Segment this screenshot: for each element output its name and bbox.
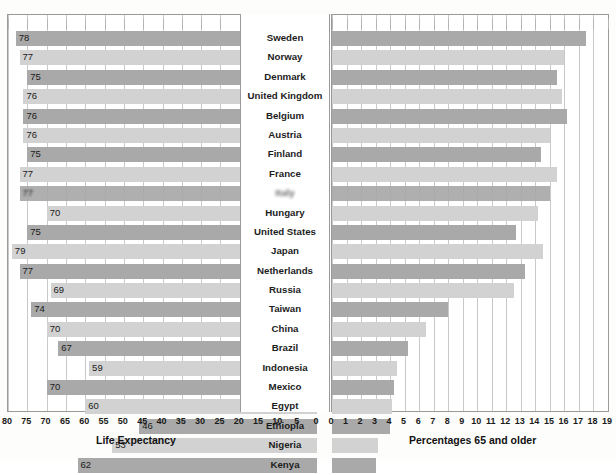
country-label-list: SwedenNorwayDenmarkUnited KingdomBelgium… xyxy=(241,28,329,474)
axis-notch xyxy=(47,19,48,29)
bar-value-label: 75 xyxy=(27,69,41,85)
bar-value-label: 78 xyxy=(16,30,30,46)
percent-65-older-bar xyxy=(332,128,550,143)
country-label-column: SwedenNorwayDenmarkUnited KingdomBelgium… xyxy=(240,14,330,412)
country-label: Austria xyxy=(241,125,329,144)
bar-value-label: 79 xyxy=(12,243,26,259)
bar-value-label: 69 xyxy=(50,282,64,298)
axis-tick-label: 5 xyxy=(401,416,406,426)
bar-value-label: 77 xyxy=(20,166,34,182)
axis-notch xyxy=(361,19,362,29)
axis-tick-label: 11 xyxy=(486,416,496,426)
table-row xyxy=(332,378,608,397)
bar-value-label: 77 xyxy=(20,263,34,279)
axis-notch xyxy=(492,19,493,29)
percent-65-older-bar xyxy=(332,322,426,337)
axis-tick-label: 12 xyxy=(500,416,510,426)
table-row xyxy=(332,184,608,203)
bar-value-label: 59 xyxy=(89,360,103,376)
axis-notch xyxy=(477,19,478,29)
axis-notch xyxy=(593,19,594,29)
axis-tick-label: 40 xyxy=(156,416,166,426)
axis-notch xyxy=(564,19,565,29)
axis-tick-label: 45 xyxy=(137,416,147,426)
axis-tick-label: 1 xyxy=(343,416,348,426)
axis-notch xyxy=(66,19,67,29)
table-row xyxy=(332,281,608,300)
percent-65-older-bar xyxy=(332,206,538,221)
country-label: Taiwan xyxy=(241,299,329,318)
axis-tick-label: 18 xyxy=(587,416,597,426)
axis-tick-label: 10 xyxy=(471,416,481,426)
bar-value-label: 74 xyxy=(31,301,45,317)
bar-value-label: 76 xyxy=(23,88,37,104)
country-label: Norway xyxy=(241,47,329,66)
table-row xyxy=(332,126,608,145)
table-row xyxy=(332,339,608,358)
axis-notch xyxy=(8,19,9,29)
axis-tick-label: 4 xyxy=(387,416,392,426)
table-row xyxy=(332,87,608,106)
axis-notch xyxy=(419,19,420,29)
percent-65-older-bar xyxy=(332,147,541,162)
axis-tick-label: 65 xyxy=(60,416,70,426)
axis-notch xyxy=(182,19,183,29)
bar-value-label: 76 xyxy=(23,108,37,124)
axis-notch xyxy=(27,19,28,29)
axis-notch xyxy=(163,19,164,29)
percent-65-older-bar xyxy=(332,186,550,201)
country-label: Nigeria xyxy=(241,435,329,454)
axis-notch xyxy=(550,19,551,29)
percent-65-older-bar xyxy=(332,361,397,376)
bar-value-label: 70 xyxy=(47,321,61,337)
right-axis-title: Percentages 65 and older xyxy=(409,434,536,446)
country-label: United States xyxy=(241,222,329,241)
percent-65-older-bar xyxy=(332,302,448,317)
percent-65-older-bar xyxy=(332,244,543,259)
percent-65-older-bar xyxy=(332,109,567,124)
axis-tick-label: 6 xyxy=(416,416,421,426)
bar-value-label: 77 xyxy=(20,185,34,201)
percent-65-older-bar xyxy=(332,399,392,414)
table-row xyxy=(332,107,608,126)
table-row xyxy=(332,48,608,67)
percent-65-older-bar xyxy=(332,341,408,356)
country-label: Kenya xyxy=(241,455,329,474)
country-label: Belgium xyxy=(241,106,329,125)
table-row xyxy=(332,359,608,378)
percent-65-older-bar xyxy=(332,438,378,453)
country-label: Egypt xyxy=(241,396,329,415)
table-row xyxy=(332,68,608,87)
percent-65-older-bar xyxy=(332,283,514,298)
percent-65-older-bar xyxy=(332,380,394,395)
axis-tick-label: 15 xyxy=(544,416,554,426)
table-row xyxy=(332,204,608,223)
axis-notch xyxy=(143,19,144,29)
table-row xyxy=(332,29,608,48)
axis-notch xyxy=(332,19,333,29)
percent-65-older-bar xyxy=(332,70,557,85)
axis-tick-label: 9 xyxy=(459,416,464,426)
axis-notch xyxy=(434,19,435,29)
axis-tick-label: 60 xyxy=(79,416,89,426)
axis-tick-label: 80 xyxy=(2,416,12,426)
bar-value-label: 75 xyxy=(27,146,41,162)
table-row xyxy=(332,262,608,281)
bar-value-label: 76 xyxy=(23,127,37,143)
left-axis-title: Life Expectancy xyxy=(96,434,176,446)
axis-notch xyxy=(390,19,391,29)
axis-notch xyxy=(220,19,221,29)
percent-65-older-bar xyxy=(332,458,376,473)
table-row xyxy=(332,320,608,339)
axis-notch xyxy=(376,19,377,29)
axis-tick-label: 70 xyxy=(41,416,51,426)
axis-notch xyxy=(405,19,406,29)
table-row xyxy=(332,300,608,319)
axis-tick-label: 3 xyxy=(372,416,377,426)
country-label: Italy xyxy=(241,183,329,202)
axis-tick-label: 50 xyxy=(118,416,128,426)
country-label: Sweden xyxy=(241,28,329,47)
table-row xyxy=(332,145,608,164)
axis-notch xyxy=(535,19,536,29)
